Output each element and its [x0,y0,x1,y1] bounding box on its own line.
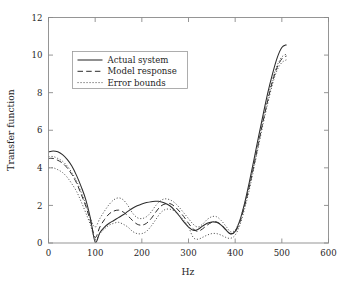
x-axis-title: Hz [182,266,195,277]
x-tick-label-6: 600 [320,248,336,258]
x-tick-label-1: 100 [87,248,103,258]
x-tick-label-2: 200 [134,248,150,258]
y-tick-label-2: 4 [37,163,43,173]
y-tick-label-4: 8 [37,88,42,98]
y-tick-label-5: 10 [32,50,43,60]
x-tick-label-0: 0 [46,248,51,258]
figure-container: 0100200300400500600 024681012 Hz Transfe… [0,0,348,288]
chart-legend: Actual systemModel responseError bounds [73,52,188,89]
x-tick-label-5: 500 [274,248,290,258]
legend-label-0: Actual system [107,55,169,65]
transfer-function-chart: 0100200300400500600 024681012 Hz Transfe… [0,0,348,288]
y-tick-label-1: 2 [37,201,42,211]
x-tick-label-4: 400 [227,248,243,258]
x-tick-label-3: 300 [180,248,196,258]
y-tick-label-6: 12 [32,13,43,23]
legend-label-1: Model response [108,66,177,76]
y-tick-label-0: 0 [37,238,42,248]
y-axis-title: Transfer function [5,89,16,170]
y-axis-ticks: 024681012 [32,13,329,249]
y-tick-label-3: 6 [37,125,42,135]
legend-label-2: Error bounds [108,78,166,88]
